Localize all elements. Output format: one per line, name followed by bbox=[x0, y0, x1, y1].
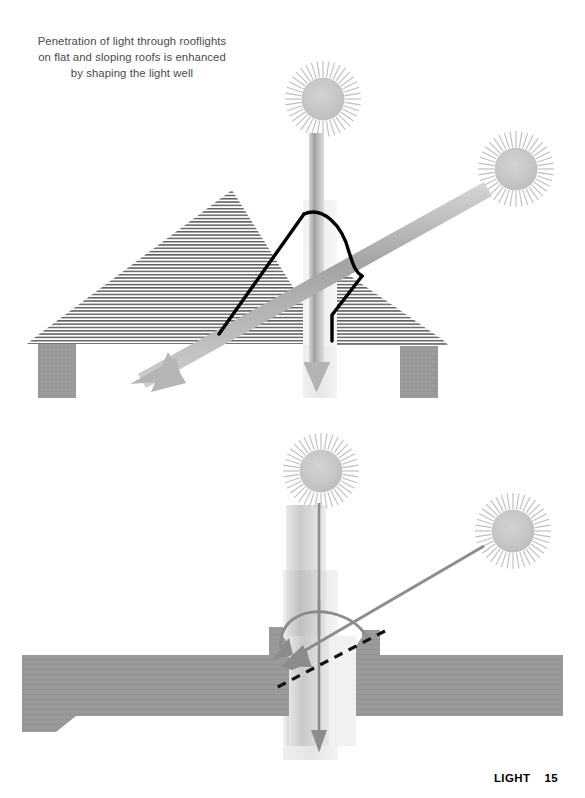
diagonal-light-beam-upper bbox=[130, 182, 492, 392]
sun-low-right-upper bbox=[478, 131, 554, 207]
light-well-glow-lower bbox=[283, 570, 338, 760]
roof-right-eave bbox=[330, 340, 449, 346]
pier-left-upper bbox=[38, 344, 76, 398]
footer-section-label: LIGHT bbox=[494, 772, 531, 784]
well-interior-lower bbox=[289, 636, 356, 746]
caption-line-2: on flat and sloping roofs is enhanced bbox=[12, 49, 252, 65]
page-canvas: Penetration of light through rooflights … bbox=[0, 0, 585, 798]
reflected-arc-arrowhead bbox=[272, 638, 293, 660]
vertical-beam-lower-overlay bbox=[289, 636, 329, 746]
pier-right-upper bbox=[400, 346, 438, 398]
sun-low-right-lower bbox=[475, 493, 551, 569]
vertical-beam-arrowhead-upper bbox=[304, 362, 331, 392]
diagram-flat-roof bbox=[22, 433, 563, 760]
dashed-sightline-lower bbox=[272, 631, 385, 690]
caption-line-1: Penetration of light through rooflights bbox=[12, 33, 252, 49]
vertical-light-beam-lower bbox=[286, 503, 327, 752]
sun-overhead-lower bbox=[283, 433, 359, 509]
caption-line-3: by shaping the light well bbox=[12, 65, 252, 81]
diagram-sloping-roof bbox=[27, 61, 554, 398]
roof-left-pitch bbox=[34, 190, 325, 338]
roof-slab-right bbox=[356, 630, 563, 716]
vertical-beam-arrowhead-lower bbox=[311, 730, 327, 752]
figure-caption: Penetration of light through rooflights … bbox=[12, 33, 252, 82]
roof-well-cut bbox=[303, 186, 337, 346]
roof-left-eave bbox=[27, 338, 325, 344]
vertical-light-beam-upper bbox=[304, 133, 331, 392]
roof-well-glow-inner bbox=[303, 200, 337, 350]
roof-right-pitch bbox=[330, 262, 443, 340]
light-well-glow-upper bbox=[303, 200, 337, 398]
sun-overhead-upper bbox=[285, 61, 361, 137]
diagram-artwork bbox=[0, 0, 585, 798]
diagonal-ray-lower bbox=[281, 546, 484, 670]
light-well-outline-upper bbox=[219, 212, 362, 341]
footer-page-number: 15 bbox=[544, 772, 558, 784]
reflected-light-arc-lower bbox=[281, 612, 367, 648]
roof-slab-left bbox=[22, 627, 289, 732]
page-footer: LIGHT15 bbox=[0, 772, 585, 784]
vertical-light-beam-upper-overlay bbox=[309, 186, 324, 371]
